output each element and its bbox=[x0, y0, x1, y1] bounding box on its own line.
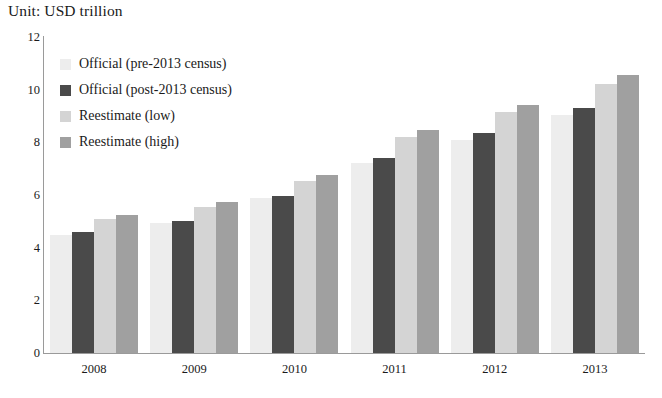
bar bbox=[72, 232, 94, 353]
legend-item: Reestimate (high) bbox=[60, 129, 232, 155]
bar bbox=[116, 215, 138, 353]
y-axis-tick-label: 4 bbox=[4, 240, 40, 255]
bar bbox=[250, 198, 272, 353]
bar bbox=[395, 137, 417, 353]
bar-group bbox=[551, 37, 639, 353]
y-axis-tick-label: 2 bbox=[4, 293, 40, 308]
x-axis-tick-label: 2012 bbox=[451, 362, 539, 377]
bar bbox=[50, 235, 72, 354]
bar bbox=[573, 108, 595, 353]
y-axis-tick-label: 10 bbox=[4, 82, 40, 97]
bar-group bbox=[351, 37, 439, 353]
x-axis-tick-label: 2010 bbox=[250, 362, 338, 377]
bar bbox=[216, 202, 238, 353]
legend-swatch-icon bbox=[60, 111, 71, 122]
bar bbox=[373, 158, 395, 353]
bar bbox=[517, 105, 539, 353]
y-axis-tick-label: 8 bbox=[4, 135, 40, 150]
legend-swatch-icon bbox=[60, 137, 71, 148]
bar-chart: Unit: USD trillion 121086420 20082009201… bbox=[0, 0, 662, 398]
y-axis-tick-label: 0 bbox=[4, 346, 40, 361]
bar bbox=[617, 75, 639, 353]
bar bbox=[194, 207, 216, 353]
x-axis-tick-label: 2008 bbox=[50, 362, 138, 377]
bar bbox=[316, 175, 338, 353]
y-axis-tick-label: 12 bbox=[4, 30, 40, 45]
legend-item-label: Official (post-2013 census) bbox=[79, 83, 232, 97]
bar bbox=[272, 196, 294, 353]
x-axis-tick-label: 2009 bbox=[150, 362, 238, 377]
legend-item-label: Reestimate (high) bbox=[79, 135, 179, 149]
legend-item-label: Reestimate (low) bbox=[79, 109, 175, 123]
bar bbox=[94, 219, 116, 353]
legend-swatch-icon bbox=[60, 59, 71, 70]
unit-label: Unit: USD trillion bbox=[8, 2, 123, 20]
legend-item: Official (pre-2013 census) bbox=[60, 51, 232, 77]
bar bbox=[451, 140, 473, 353]
bar bbox=[551, 115, 573, 353]
bar bbox=[150, 223, 172, 353]
bar bbox=[172, 221, 194, 353]
legend-item: Reestimate (low) bbox=[60, 103, 232, 129]
x-axis-tick-label: 2013 bbox=[551, 362, 639, 377]
bar bbox=[473, 133, 495, 353]
legend-item: Official (post-2013 census) bbox=[60, 77, 232, 103]
legend-item-label: Official (pre-2013 census) bbox=[79, 57, 226, 71]
bar bbox=[595, 84, 617, 353]
bar-group bbox=[250, 37, 338, 353]
bar bbox=[417, 130, 439, 353]
bar bbox=[351, 163, 373, 353]
y-axis-tick-label: 6 bbox=[4, 188, 40, 203]
x-axis-tick-label: 2011 bbox=[351, 362, 439, 377]
bar bbox=[294, 181, 316, 353]
bar-group bbox=[451, 37, 539, 353]
x-axis-line bbox=[43, 353, 645, 354]
bar bbox=[495, 112, 517, 353]
chart-legend: Official (pre-2013 census)Official (post… bbox=[60, 51, 232, 155]
legend-swatch-icon bbox=[60, 85, 71, 96]
